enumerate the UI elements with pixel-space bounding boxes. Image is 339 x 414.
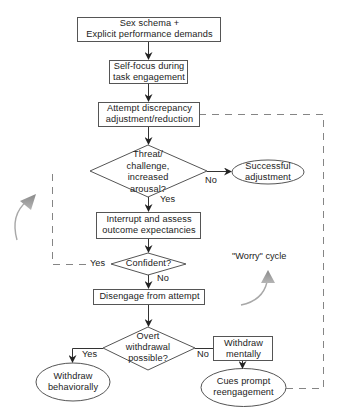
- label-confident: Confident?: [111, 258, 186, 269]
- label-self-focus: Self-focus during task engagement: [110, 61, 188, 83]
- label-line: reengagement: [201, 387, 286, 398]
- label-line: Attempt discrepancy: [99, 103, 200, 114]
- label-line: Explicit performance demands: [78, 29, 221, 40]
- edge-label-confident-yes: Yes: [90, 258, 105, 269]
- label-line: Cues prompt: [201, 376, 286, 387]
- label-line: behaviorally: [36, 382, 110, 393]
- label-line: increased: [108, 172, 188, 184]
- edge-confident-yes-dashed: [53, 172, 87, 265]
- label-threat: Threat/ challenge, increased arousal?: [108, 149, 188, 195]
- label-line: Threat/: [108, 149, 188, 161]
- label-line: Successful: [232, 161, 304, 172]
- label-line: adjustment: [232, 172, 304, 183]
- label-line: Overt: [113, 331, 183, 342]
- label-line: Sex schema +: [78, 18, 221, 29]
- label-line: challenge,: [108, 161, 188, 173]
- label-line: Withdraw: [214, 338, 273, 349]
- label-line: withdrawal: [113, 342, 183, 353]
- label-withdraw-behaviorally: Withdraw behaviorally: [36, 371, 110, 393]
- label-line: task engagement: [110, 72, 188, 83]
- label-interrupt: Interrupt and assess outcome expectancie…: [97, 214, 201, 236]
- label-sex-schema: Sex schema + Explicit performance demand…: [78, 18, 221, 40]
- edge-label-overt-yes: Yes: [82, 349, 97, 360]
- label-line: Withdraw: [36, 371, 110, 382]
- edge-label-threat-yes: Yes: [160, 194, 175, 205]
- cycle-arrow-left: [15, 194, 36, 240]
- label-overt: Overt withdrawal possible?: [113, 331, 183, 364]
- label-line: Self-focus during: [110, 61, 188, 72]
- label-line: mentally: [214, 349, 273, 360]
- edge-label-overt-no: No: [197, 349, 209, 360]
- label-line: Confident?: [111, 258, 186, 269]
- edge-label-threat-no: No: [205, 175, 217, 186]
- label-line: adjustment/reduction: [99, 114, 200, 125]
- label-line: Disengage from attempt: [94, 291, 205, 302]
- label-line: arousal?: [108, 184, 188, 196]
- label-withdraw-mentally: Withdraw mentally: [214, 338, 273, 360]
- flowchart: Sex schema + Explicit performance demand…: [0, 0, 339, 414]
- worry-cycle-annotation: "Worry" cycle: [232, 251, 286, 262]
- label-successful: Successful adjustment: [232, 161, 304, 183]
- label-disengage: Disengage from attempt: [94, 291, 205, 302]
- label-attempt: Attempt discrepancy adjustment/reduction: [99, 103, 200, 125]
- edge-label-confident-no: No: [157, 273, 169, 284]
- cycle-arrow-right: [241, 270, 275, 305]
- label-line: Interrupt and assess: [97, 214, 201, 225]
- label-line: possible?: [113, 353, 183, 364]
- label-line: outcome expectancies: [97, 225, 201, 236]
- label-cues: Cues prompt reengagement: [201, 376, 286, 398]
